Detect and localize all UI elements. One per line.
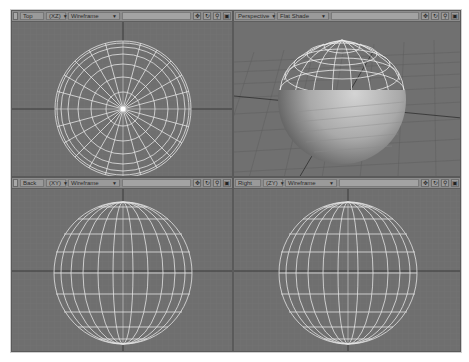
viewport-field[interactable]: [331, 12, 419, 20]
rotate-icon[interactable]: ↻: [203, 179, 211, 187]
axis-dropdown[interactable]: (XZ)▼: [46, 12, 66, 20]
back-view-scene: [12, 189, 233, 352]
shading-dropdown[interactable]: Wireframe▼: [285, 179, 337, 187]
viewport-field[interactable]: [122, 179, 191, 187]
move-icon[interactable]: ✥: [193, 12, 201, 20]
move-icon[interactable]: ✥: [193, 179, 201, 187]
viewport-handle[interactable]: [13, 12, 18, 20]
shading-label: Wireframe: [71, 180, 99, 186]
shading-dropdown[interactable]: Wireframe▼: [68, 12, 120, 20]
viewport-frame: Top (XZ)▼ Wireframe▼ ✥ ↻ ⚲ ▣: [10, 9, 462, 353]
viewport-top[interactable]: Top (XZ)▼ Wireframe▼ ✥ ↻ ⚲ ▣: [11, 10, 233, 177]
viewport-field[interactable]: [339, 179, 419, 187]
view-label: Right: [235, 179, 261, 187]
viewport-header: Perspective▼ Flat Shade▼ ✥ ↻ ⚲ ▣: [234, 11, 460, 22]
zoom-icon[interactable]: ⚲: [213, 179, 221, 187]
viewport-header: Right (ZY)▼ Wireframe▼ ✥ ↻ ⚲ ▣: [234, 178, 460, 189]
axis-dropdown[interactable]: (XY)▼: [46, 179, 66, 187]
viewport-header: Top (XZ)▼ Wireframe▼ ✥ ↻ ⚲ ▣: [12, 11, 232, 22]
viewport-right[interactable]: Right (ZY)▼ Wireframe▼ ✥ ↻ ⚲ ▣: [233, 177, 461, 352]
chevron-down-icon: ▼: [63, 13, 68, 19]
view-dropdown[interactable]: Perspective▼: [235, 12, 275, 20]
maximize-icon[interactable]: ▣: [223, 12, 231, 20]
shading-label: Flat Shade: [280, 13, 309, 19]
rotate-icon[interactable]: ↻: [431, 179, 439, 187]
axis-dropdown[interactable]: (ZY)▼: [263, 179, 283, 187]
top-view-scene: [12, 22, 233, 177]
shading-dropdown[interactable]: Wireframe▼: [68, 179, 120, 187]
chevron-down-icon: ▼: [329, 180, 334, 186]
chevron-down-icon: ▼: [280, 180, 285, 186]
chevron-down-icon: ▼: [321, 13, 326, 19]
viewport-header: Back (XY)▼ Wireframe▼ ✥ ↻ ⚲ ▣: [12, 178, 232, 189]
view-label: Back: [20, 179, 44, 187]
chevron-down-icon: ▼: [112, 13, 117, 19]
view-label: Top: [20, 12, 44, 20]
shading-label: Wireframe: [71, 13, 99, 19]
zoom-icon[interactable]: ⚲: [213, 12, 221, 20]
viewport-field[interactable]: [122, 12, 191, 20]
right-view-scene: [234, 189, 461, 352]
chevron-down-icon: ▼: [271, 13, 276, 19]
move-icon[interactable]: ✥: [421, 12, 429, 20]
axis-label: (ZY): [266, 180, 278, 186]
shading-dropdown[interactable]: Flat Shade▼: [277, 12, 329, 20]
view-label: Perspective: [238, 13, 269, 19]
zoom-icon[interactable]: ⚲: [441, 179, 449, 187]
maximize-icon[interactable]: ▣: [451, 12, 459, 20]
rotate-icon[interactable]: ↻: [431, 12, 439, 20]
rotate-icon[interactable]: ↻: [203, 12, 211, 20]
maximize-icon[interactable]: ▣: [223, 179, 231, 187]
viewport-perspective[interactable]: Perspective▼ Flat Shade▼ ✥ ↻ ⚲ ▣: [233, 10, 461, 177]
sphere-pole: [121, 107, 126, 112]
perspective-view-scene: [234, 22, 461, 177]
move-icon[interactable]: ✥: [421, 179, 429, 187]
viewport-back[interactable]: Back (XY)▼ Wireframe▼ ✥ ↻ ⚲ ▣: [11, 177, 233, 352]
chevron-down-icon: ▼: [112, 180, 117, 186]
viewport-handle[interactable]: [13, 179, 18, 187]
zoom-icon[interactable]: ⚲: [441, 12, 449, 20]
maximize-icon[interactable]: ▣: [451, 179, 459, 187]
axis-label: (XY): [49, 180, 61, 186]
shading-label: Wireframe: [288, 180, 316, 186]
axis-label: (XZ): [49, 13, 61, 19]
